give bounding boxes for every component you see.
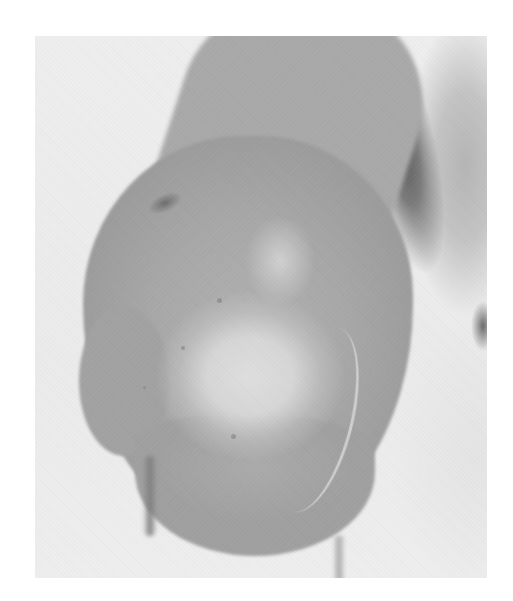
shadow-notch <box>465 296 487 356</box>
skin-speck <box>231 434 236 439</box>
skin-speck <box>181 346 185 350</box>
clinical-photo: Grayscale clinical photograph of a round… <box>35 36 487 578</box>
edge-shadow <box>143 456 157 536</box>
skin-speck <box>143 386 146 389</box>
cloth-crease <box>335 536 343 578</box>
skin-speck <box>217 298 222 303</box>
